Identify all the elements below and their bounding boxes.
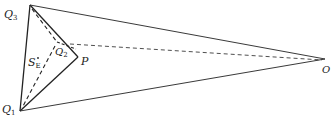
label-p: P — [80, 55, 89, 68]
se-point — [37, 57, 39, 59]
edge-q1-o — [20, 59, 325, 111]
dashed-to-o — [70, 44, 322, 60]
dashed-q3-q2 — [32, 9, 57, 42]
dashed-q2-q1 — [22, 46, 55, 108]
label-o: O — [322, 64, 330, 75]
label-q1: Q1 — [2, 103, 16, 117]
label-q2: Q2 — [55, 46, 68, 59]
geometry-diagram: Q3 Q1 Q2 P O SE — [0, 0, 333, 121]
label-q3: Q3 — [4, 8, 18, 22]
